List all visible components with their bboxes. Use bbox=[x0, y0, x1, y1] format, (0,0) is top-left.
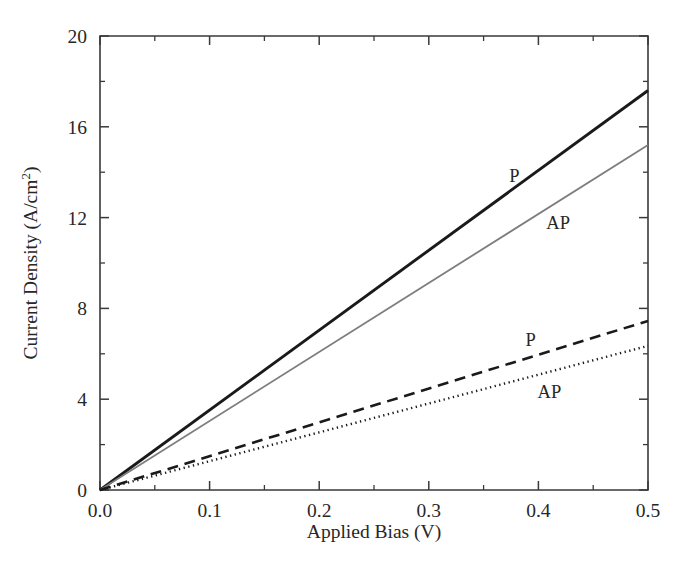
svg-text:Current Density (A/cm2): Current Density (A/cm2) bbox=[18, 167, 42, 360]
series-label-p-dashed: P bbox=[526, 330, 536, 350]
axis-frame-box bbox=[100, 36, 648, 490]
y-axis-tick-label: 8 bbox=[77, 298, 87, 319]
y-axis-tick-label: 20 bbox=[68, 26, 88, 47]
current-density-vs-applied-bias-chart: 0481216200.00.10.20.30.40.5 PAPPAP Appli… bbox=[0, 0, 697, 573]
series-line-ap bbox=[100, 145, 648, 490]
chart-figure: 0481216200.00.10.20.30.40.5 PAPPAP Appli… bbox=[0, 0, 697, 573]
series-line-p bbox=[100, 90, 648, 490]
y-axis-tick-label: 12 bbox=[68, 208, 88, 229]
x-axis-tick-label: 0.4 bbox=[526, 500, 551, 521]
y-axis-title-suffix: ) bbox=[20, 167, 42, 174]
series-label-ap-dotted: AP bbox=[538, 382, 562, 402]
y-axis-title: Current Density (A/cm2) bbox=[18, 167, 42, 360]
x-axis-title: Applied Bias (V) bbox=[307, 521, 441, 543]
axes-frame bbox=[100, 36, 648, 490]
x-axis-tick-label: 0.0 bbox=[88, 500, 112, 521]
x-axis-tick-label: 0.3 bbox=[417, 500, 441, 521]
y-axis-tick-label: 16 bbox=[68, 117, 88, 138]
series-label-p: P bbox=[509, 166, 519, 186]
x-axis-tick-label: 0.5 bbox=[636, 500, 660, 521]
x-axis-tick-label: 0.2 bbox=[307, 500, 331, 521]
series-inline-labels: PAPPAP bbox=[509, 166, 570, 402]
series-line-ap-dotted bbox=[100, 346, 648, 490]
y-axis-title-text: Current Density (A/cm bbox=[20, 180, 42, 360]
series-line-p-dashed bbox=[100, 321, 648, 490]
axis-ticks-layer bbox=[100, 36, 648, 490]
y-axis-tick-label: 0 bbox=[77, 480, 87, 501]
x-axis-tick-label: 0.1 bbox=[197, 500, 221, 521]
series-label-ap: AP bbox=[546, 213, 570, 233]
y-axis-tick-label: 4 bbox=[77, 389, 87, 410]
data-series-layer bbox=[100, 90, 648, 490]
tick-labels-layer: 0481216200.00.10.20.30.40.5 bbox=[68, 26, 661, 521]
